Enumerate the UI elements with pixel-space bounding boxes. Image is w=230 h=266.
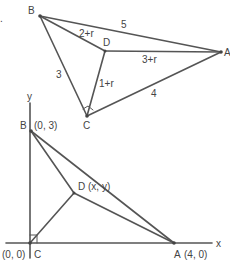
edge-label-CA: 4 <box>151 88 157 99</box>
point-B <box>29 129 33 133</box>
label-D: D <box>103 37 110 48</box>
stray-mark: . <box>0 13 3 24</box>
top-figure: . B D A C 5 2+r 3+r 3 1+r 4 <box>0 5 230 131</box>
label-C: C <box>34 249 41 260</box>
y-axis-label: y <box>27 91 32 102</box>
edge-label-BD: 2+r <box>79 28 94 39</box>
label-A-coord: (4, 0) <box>184 249 207 260</box>
label-C: C <box>83 120 90 131</box>
edge-BA <box>40 16 221 52</box>
x-axis-label: x <box>216 238 221 249</box>
label-B: B <box>28 5 35 16</box>
edge-label-BA: 5 <box>121 19 127 30</box>
label-C-coord: (0, 0) <box>2 249 25 260</box>
point-D <box>73 192 76 195</box>
edge-BD <box>40 16 105 51</box>
point-A <box>172 241 176 245</box>
point-D <box>104 50 107 53</box>
label-A: A <box>224 47 230 58</box>
point-A <box>219 50 223 54</box>
diagram-canvas: . B D A C 5 2+r 3+r 3 1+r 4 y x <box>0 0 230 266</box>
edge-label-DC: 1+r <box>99 78 114 89</box>
point-C <box>85 114 89 118</box>
edge-label-BC: 3 <box>56 69 62 80</box>
bottom-figure: y x B (0, 3) D (x, y) A (4, 0) (0, 0) C <box>2 91 221 260</box>
label-B-coord: (0, 3) <box>34 120 57 131</box>
label-D: D <box>78 181 85 192</box>
label-D-coord: (x, y) <box>88 181 110 192</box>
point-C <box>28 241 32 245</box>
edge-BD <box>31 131 74 193</box>
point-B <box>38 14 42 18</box>
edge-label-DA: 3+r <box>142 54 157 65</box>
edge-DA <box>74 193 174 243</box>
edge-DA <box>105 51 221 52</box>
label-B: B <box>20 120 27 131</box>
label-A: A <box>174 249 181 260</box>
